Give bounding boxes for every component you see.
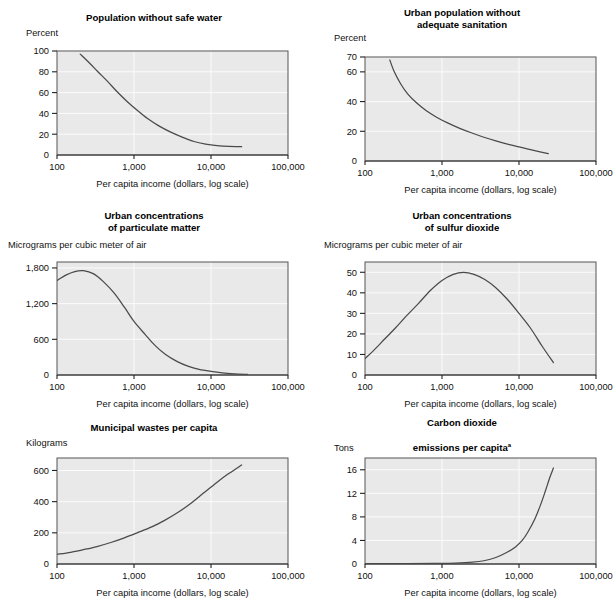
svg-text:100: 100 [357, 168, 373, 178]
svg-text:Per capita income (dollars, lo: Per capita income (dollars, log scale) [404, 588, 556, 598]
chart-panel-municipal-wastes: Municipal wastes per capita Kilograms 02… [0, 410, 308, 434]
svg-text:10: 10 [347, 350, 357, 360]
svg-text:1,000: 1,000 [430, 168, 453, 178]
svg-text:8: 8 [352, 512, 357, 522]
svg-text:100,000: 100,000 [271, 162, 305, 172]
svg-text:10,000: 10,000 [505, 571, 533, 581]
svg-text:Per capita income (dollars, lo: Per capita income (dollars, log scale) [96, 588, 248, 598]
svg-text:10,000: 10,000 [505, 382, 533, 392]
svg-text:16: 16 [347, 465, 357, 475]
svg-text:40: 40 [347, 97, 357, 107]
svg-text:60: 60 [39, 88, 49, 98]
svg-text:0: 0 [44, 370, 49, 380]
svg-text:20: 20 [39, 130, 49, 140]
svg-text:100: 100 [357, 571, 373, 581]
svg-text:Per capita income (dollars, lo: Per capita income (dollars, log scale) [404, 399, 556, 409]
svg-text:400: 400 [33, 497, 49, 507]
svg-text:100: 100 [49, 571, 65, 581]
svg-text:40: 40 [39, 109, 49, 119]
svg-text:80: 80 [39, 67, 49, 77]
svg-text:12: 12 [347, 489, 357, 499]
svg-text:200: 200 [33, 528, 49, 538]
svg-text:1,000: 1,000 [430, 571, 453, 581]
svg-text:10,000: 10,000 [197, 382, 225, 392]
svg-text:100,000: 100,000 [579, 168, 613, 178]
svg-text:600: 600 [33, 466, 49, 476]
svg-text:1,000: 1,000 [122, 571, 145, 581]
svg-text:0: 0 [352, 559, 357, 569]
svg-text:70: 70 [347, 52, 357, 62]
chart-panel-safe-water: Population without safe water Percent 02… [0, 0, 308, 24]
svg-text:10,000: 10,000 [197, 162, 225, 172]
svg-text:4: 4 [352, 536, 357, 546]
svg-text:1,200: 1,200 [26, 299, 49, 309]
svg-text:10,000: 10,000 [505, 168, 533, 178]
svg-text:1,800: 1,800 [26, 263, 49, 273]
svg-text:100,000: 100,000 [271, 382, 305, 392]
svg-text:20: 20 [347, 127, 357, 137]
chart-panel-sulfur-dioxide: Urban concentrations of sulfur dioxide M… [308, 203, 616, 233]
svg-text:100,000: 100,000 [579, 571, 613, 581]
chart-panel-carbon-dioxide: Carbon dioxide emissions per capitaa Ton… [308, 410, 616, 454]
svg-text:100,000: 100,000 [579, 382, 613, 392]
svg-text:20: 20 [347, 329, 357, 339]
svg-text:50: 50 [347, 268, 357, 278]
plot-svg-particulate: 06001,2001,8001001,00010,000100,000Per c… [0, 203, 308, 410]
chart-panel-particulate: Urban concentrations of particulate matt… [0, 203, 308, 233]
environmental-indicators-figure: Population without safe water Percent 02… [0, 0, 616, 608]
svg-text:0: 0 [44, 559, 49, 569]
svg-text:100: 100 [49, 382, 65, 392]
svg-text:0: 0 [44, 150, 49, 160]
svg-text:10,000: 10,000 [197, 571, 225, 581]
svg-text:1,000: 1,000 [430, 382, 453, 392]
svg-text:40: 40 [347, 288, 357, 298]
svg-text:Per capita income (dollars, lo: Per capita income (dollars, log scale) [404, 185, 556, 195]
plot-svg-carbon-dioxide: 04812161001,00010,000100,000Per capita i… [308, 410, 616, 608]
svg-text:1,000: 1,000 [122, 162, 145, 172]
plot-svg-safe-water: 0204060801001001,00010,000100,000Per cap… [0, 0, 308, 200]
svg-text:100,000: 100,000 [271, 571, 305, 581]
chart-panel-sanitation: Urban population without adequate sanita… [308, 0, 616, 30]
svg-text:Per capita income (dollars, lo: Per capita income (dollars, log scale) [96, 399, 248, 409]
plot-svg-municipal-wastes: 02004006001001,00010,000100,000Per capit… [0, 410, 308, 608]
plot-svg-sanitation: 0204060701001,00010,000100,000Per capita… [308, 0, 616, 200]
svg-text:0: 0 [352, 156, 357, 166]
svg-text:0: 0 [352, 370, 357, 380]
svg-text:1,000: 1,000 [122, 382, 145, 392]
svg-text:100: 100 [49, 162, 65, 172]
svg-text:30: 30 [347, 309, 357, 319]
svg-text:600: 600 [33, 335, 49, 345]
svg-text:Per capita income (dollars, lo: Per capita income (dollars, log scale) [96, 179, 248, 189]
svg-text:60: 60 [347, 67, 357, 77]
svg-text:100: 100 [33, 46, 49, 56]
plot-svg-sulfur-dioxide: 010203040501001,00010,000100,000Per capi… [308, 203, 616, 410]
svg-text:100: 100 [357, 382, 373, 392]
